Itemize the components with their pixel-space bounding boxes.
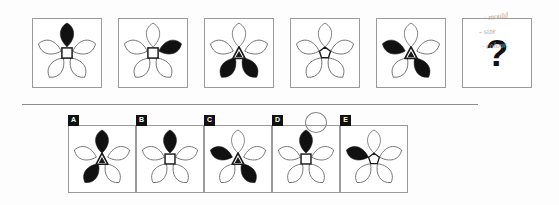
flower-graphic bbox=[377, 19, 445, 87]
petal-top-outline bbox=[368, 130, 381, 153]
option-label-a[interactable]: A bbox=[68, 115, 79, 126]
petal-upper-left-filled bbox=[208, 144, 234, 163]
sequence-panel-5 bbox=[376, 18, 446, 88]
flower-graphic bbox=[205, 19, 273, 87]
flower-graphic bbox=[69, 126, 135, 192]
petal-top-outline bbox=[232, 130, 245, 153]
petal-upper-right-outline bbox=[415, 37, 442, 57]
flower-graphic bbox=[205, 126, 271, 192]
flower-center-triangle bbox=[96, 153, 108, 164]
petal-upper-right-outline bbox=[71, 37, 98, 57]
petal-upper-right-outline bbox=[106, 144, 132, 163]
puzzle-canvas: ? ABCDE · mould- size· colour. bbox=[0, 0, 559, 205]
sequence-panel-4 bbox=[290, 18, 360, 88]
petal-upper-right-outline bbox=[378, 144, 404, 163]
handwritten-note-line-2: - size bbox=[479, 26, 497, 37]
option-label-b[interactable]: B bbox=[136, 115, 147, 126]
petal-upper-right-outline bbox=[243, 37, 270, 57]
flower-center-triangle bbox=[405, 47, 417, 59]
flower-center-triangle bbox=[233, 47, 245, 59]
handwritten-note-line-3: · colour. bbox=[482, 40, 509, 51]
question-mark: ? bbox=[463, 19, 531, 87]
petal-top-outline bbox=[146, 23, 159, 47]
sequence-panel-question: ? bbox=[462, 18, 532, 88]
selected-answer-circle bbox=[305, 112, 327, 133]
petal-upper-left-outline bbox=[122, 37, 149, 57]
flower-graphic bbox=[291, 19, 359, 87]
option-label-c[interactable]: C bbox=[204, 115, 215, 126]
flower-center-triangle bbox=[232, 153, 244, 164]
flower-graphic bbox=[341, 126, 407, 192]
petal-upper-left-outline bbox=[276, 144, 302, 163]
petal-upper-left-outline bbox=[72, 144, 98, 163]
sequence-panel-1 bbox=[32, 18, 102, 88]
petal-top-filled bbox=[60, 23, 73, 47]
flower-graphic bbox=[273, 126, 339, 192]
section-divider bbox=[22, 104, 478, 105]
option-panel-d[interactable]: D bbox=[272, 125, 340, 193]
petal-upper-left-outline bbox=[208, 37, 235, 57]
option-label-d[interactable]: D bbox=[272, 115, 283, 126]
sequence-panel-2 bbox=[118, 18, 188, 88]
petal-upper-right-outline bbox=[310, 144, 336, 163]
petal-upper-left-outline bbox=[140, 144, 166, 163]
petal-upper-left-outline bbox=[294, 37, 321, 57]
petal-upper-right-filled bbox=[157, 37, 184, 57]
petal-upper-left-outline bbox=[36, 37, 63, 57]
petal-upper-left-filled bbox=[344, 144, 370, 163]
petal-upper-right-outline bbox=[174, 144, 200, 163]
petal-top-outline bbox=[404, 23, 417, 47]
flower-graphic bbox=[33, 19, 101, 87]
option-panel-a[interactable]: A bbox=[68, 125, 136, 193]
flower-center-square bbox=[165, 154, 175, 164]
flower-center-square bbox=[301, 154, 311, 164]
flower-center-pentagon bbox=[369, 153, 380, 163]
flower-graphic bbox=[119, 19, 187, 87]
option-panel-c[interactable]: C bbox=[204, 125, 272, 193]
flower-center-square bbox=[62, 48, 72, 58]
petal-top-filled bbox=[96, 130, 109, 153]
petal-top-outline bbox=[318, 23, 331, 47]
option-panel-b[interactable]: B bbox=[136, 125, 204, 193]
sequence-panel-3 bbox=[204, 18, 274, 88]
option-label-e[interactable]: E bbox=[340, 115, 351, 126]
petal-upper-right-outline bbox=[329, 37, 356, 57]
flower-center-pentagon bbox=[319, 47, 330, 58]
flower-graphic bbox=[137, 126, 203, 192]
petal-top-filled bbox=[300, 130, 313, 153]
petal-upper-right-outline bbox=[242, 144, 268, 163]
petal-top-filled bbox=[164, 130, 177, 153]
option-panel-e[interactable]: E bbox=[340, 125, 408, 193]
petal-top-outline bbox=[232, 23, 245, 47]
petal-upper-left-filled bbox=[380, 37, 407, 57]
flower-center-square bbox=[148, 48, 158, 58]
